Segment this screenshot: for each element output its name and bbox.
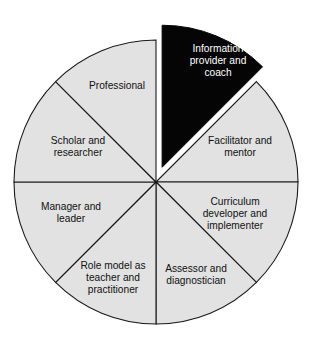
pie-slice-label-scholar-and-researcher: Scholar andresearcher [51,135,106,158]
pie-slice-label-assessor-and-diagnostician: Assessor anddiagnostician [165,263,227,286]
pie-chart-svg: Informationprovider andcoachFacilitator … [0,0,313,344]
pie-slice-label-curriculum-developer-and-implementer: Curriculumdeveloper andimplementer [203,196,268,231]
pie-chart-figure: Informationprovider andcoachFacilitator … [0,0,313,344]
pie-slice-label-role-model-as-teacher-and-practitioner: Role model asteacher andpractitioner [80,260,145,295]
pie-slice-label-professional: Professional [89,80,145,91]
